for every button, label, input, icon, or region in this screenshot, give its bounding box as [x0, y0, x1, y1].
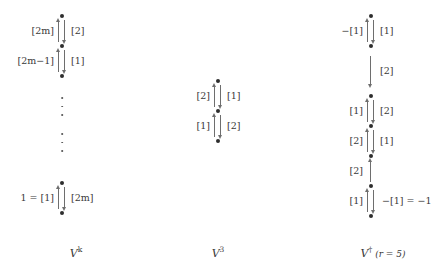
- edge-label-left: [2]: [350, 136, 363, 146]
- edge-label-left: [1]: [197, 121, 210, 131]
- edge-label-right: [2]: [380, 106, 393, 116]
- node-dot: [216, 139, 220, 143]
- arrow-pair-up-down: [212, 83, 224, 109]
- edge-label-left: [2m−1]: [18, 56, 54, 66]
- edge-label-right: [2]: [380, 66, 393, 76]
- edge-label-right: [2]: [227, 121, 240, 131]
- arrow-down-icon: [62, 18, 68, 44]
- edge-label-right: [1]: [227, 91, 240, 101]
- arrow-down-icon: [371, 188, 377, 214]
- arrow-down-icon: [62, 48, 68, 74]
- edge-label-right: [1]: [380, 26, 393, 36]
- edge-label-right: [2]: [71, 26, 84, 36]
- arrow-pair-up-down: [365, 98, 377, 124]
- arrow-single-down: [368, 54, 374, 88]
- column-caption-vk: Vk: [70, 245, 83, 260]
- caption-parameter: (r = 5): [375, 249, 405, 259]
- arrow-pair-up-down: [365, 128, 377, 154]
- node-dot: [60, 211, 64, 215]
- column-caption-vdagger: V†(r = 5): [360, 245, 405, 260]
- edge-label-left: [1]: [350, 106, 363, 116]
- edge-label-right: [2m]: [71, 193, 93, 203]
- quiver-diagram: [2m] [2] [2m−1] [1] 1 = [1] [2m] Vk: [0, 0, 442, 273]
- arrow-pair-up-down: [56, 18, 68, 44]
- edge-label-left: [2]: [197, 91, 210, 101]
- node-dot: [60, 74, 64, 78]
- arrow-up-icon: [368, 158, 374, 184]
- edge-label-left: −[1]: [342, 26, 363, 36]
- edge-label-left: 1 = [1]: [20, 193, 54, 203]
- arrow-down-icon: [62, 185, 68, 211]
- edge-label-right: −[1] = −1: [382, 196, 431, 206]
- arrow-down-icon: [371, 18, 377, 44]
- vertical-ellipsis: [61, 97, 63, 116]
- arrow-down-icon: [368, 54, 374, 88]
- edge-label-right: [1]: [380, 136, 393, 146]
- edge-label-left: [2]: [350, 166, 363, 176]
- column-caption-vs: V3: [212, 245, 225, 260]
- arrow-single-up: [368, 158, 374, 184]
- node-dot: [369, 214, 373, 218]
- edge-label-right: [1]: [71, 56, 84, 66]
- edge-label-left: [2m]: [32, 26, 54, 36]
- arrow-pair-up-down: [365, 18, 377, 44]
- vertical-ellipsis: [61, 133, 63, 152]
- caption-superscript: †: [368, 245, 372, 254]
- arrow-down-icon: [218, 113, 224, 139]
- edge-label-left: [1]: [350, 196, 363, 206]
- caption-base: V: [360, 247, 368, 260]
- node-dot: [369, 44, 373, 48]
- arrow-pair-up-down: [56, 48, 68, 74]
- arrow-down-icon: [218, 83, 224, 109]
- caption-base: V: [70, 247, 78, 260]
- arrow-down-icon: [371, 128, 377, 154]
- arrow-pair-up-down: [212, 113, 224, 139]
- arrow-pair-up-down: [365, 188, 377, 214]
- caption-base: V: [212, 247, 220, 260]
- arrow-pair-up-down: [56, 185, 68, 211]
- caption-superscript: 3: [220, 245, 225, 254]
- arrow-down-icon: [371, 98, 377, 124]
- caption-superscript: k: [78, 245, 83, 254]
